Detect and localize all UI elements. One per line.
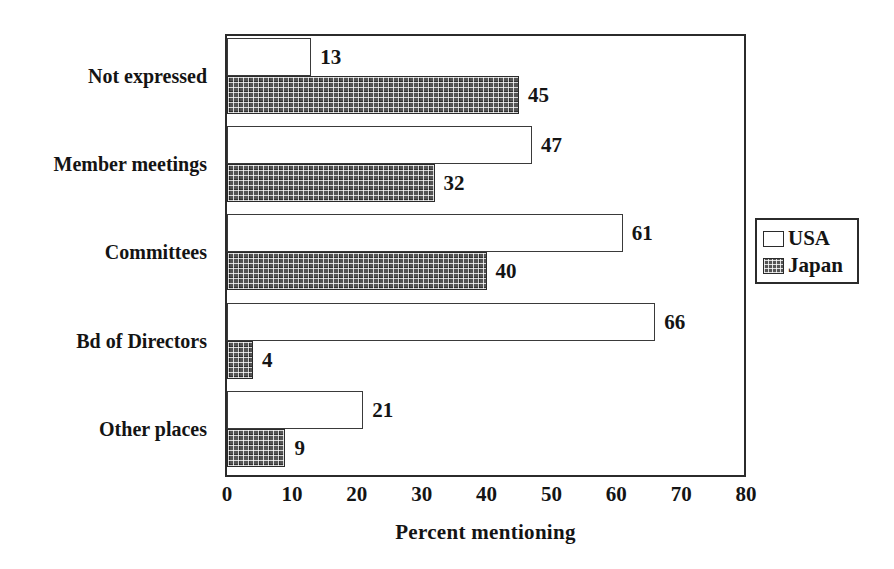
x-tick-50: 50 <box>541 484 562 505</box>
bar-usa-1[interactable] <box>227 126 532 164</box>
category-label-1: Member meetings <box>0 154 215 174</box>
bar-japan-2[interactable] <box>227 252 487 290</box>
bar-usa-2[interactable] <box>227 214 623 252</box>
value-label-usa-4: 21 <box>372 400 393 421</box>
value-label-japan-1: 32 <box>444 173 465 194</box>
x-tick-10: 10 <box>281 484 302 505</box>
value-label-japan-3: 4 <box>262 350 273 371</box>
x-tick-40: 40 <box>476 484 497 505</box>
bar-usa-4[interactable] <box>227 391 363 429</box>
legend-item-japan[interactable]: Japan <box>763 252 853 279</box>
bar-japan-0[interactable] <box>227 76 519 114</box>
category-label-3: Bd of Directors <box>0 331 215 351</box>
bar-usa-0[interactable] <box>227 38 311 76</box>
x-tick-80: 80 <box>736 484 757 505</box>
bar-japan-4[interactable] <box>227 429 285 467</box>
category-label-4: Other places <box>0 419 215 439</box>
x-axis-title: Percent mentioning <box>225 520 746 545</box>
value-label-usa-3: 66 <box>664 312 685 333</box>
legend-item-usa[interactable]: USA <box>763 225 853 252</box>
bar-chart: 134547326140664219 Not expressedMember m… <box>0 0 894 569</box>
legend-label-japan: Japan <box>788 255 843 276</box>
value-label-usa-0: 13 <box>320 47 341 68</box>
x-tick-30: 30 <box>411 484 432 505</box>
legend-label-usa: USA <box>788 228 830 249</box>
value-label-usa-1: 47 <box>541 135 562 156</box>
x-tick-60: 60 <box>606 484 627 505</box>
x-tick-0: 0 <box>222 484 233 505</box>
white-square-icon <box>763 231 784 247</box>
value-label-japan-2: 40 <box>496 261 517 282</box>
legend: USA Japan <box>755 218 859 284</box>
x-tick-70: 70 <box>671 484 692 505</box>
category-label-0: Not expressed <box>0 66 215 86</box>
bar-japan-3[interactable] <box>227 341 253 379</box>
value-label-usa-2: 61 <box>632 223 653 244</box>
bar-japan-1[interactable] <box>227 164 435 202</box>
value-label-japan-0: 45 <box>528 85 549 106</box>
bar-usa-3[interactable] <box>227 303 655 341</box>
category-label-2: Committees <box>0 242 215 262</box>
x-tick-20: 20 <box>346 484 367 505</box>
bars-layer <box>227 36 746 477</box>
value-label-japan-4: 9 <box>294 438 305 459</box>
hatched-square-icon <box>763 258 784 274</box>
